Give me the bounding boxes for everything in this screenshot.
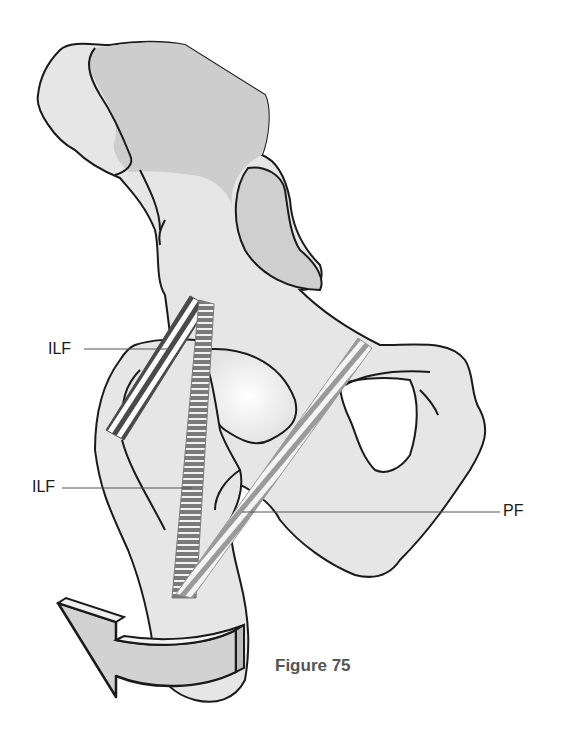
figure-caption: Figure 75	[275, 656, 351, 676]
label-ilf-lower: ILF	[32, 479, 55, 495]
label-ilf-upper: ILF	[48, 341, 71, 357]
diagram-canvas: ILF ILF PF Figure 75	[0, 0, 566, 752]
label-pf: PF	[503, 503, 523, 519]
